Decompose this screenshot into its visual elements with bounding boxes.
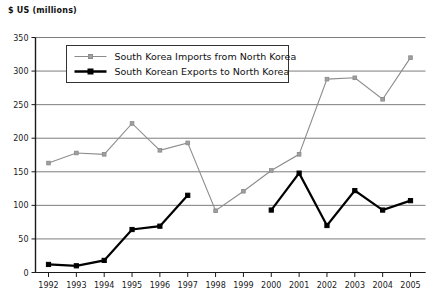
- x-axis-tick-label: 1995: [122, 281, 142, 290]
- data-series-group: [46, 56, 412, 268]
- data-point-marker: [130, 122, 134, 126]
- y-axis-tick-label: 350: [13, 34, 28, 43]
- y-axis-tick-label: 100: [13, 201, 28, 210]
- data-point-marker: [353, 76, 357, 80]
- x-axis-tick-label: 2003: [345, 281, 365, 290]
- series-line-2: [271, 173, 410, 225]
- legend-entry-label: South Korean Exports to North Korea: [115, 66, 290, 77]
- x-axis-tick-label: 2001: [289, 281, 309, 290]
- y-axis-tick-label: 250: [13, 101, 28, 110]
- legend-entry-label: South Korea Imports from North Korea: [115, 51, 297, 62]
- data-point-marker: [75, 151, 79, 155]
- x-axis-tick-label: 2005: [400, 281, 420, 290]
- data-point-marker: [102, 153, 106, 157]
- data-point-marker: [409, 56, 413, 60]
- legend-marker-swatch: [89, 55, 93, 59]
- x-axis-tick-label: 1994: [94, 281, 114, 290]
- data-point-marker: [297, 171, 301, 175]
- x-axis-tick-label: 2000: [261, 281, 281, 290]
- data-point-marker: [214, 209, 218, 213]
- y-axis-tick-label: 50: [18, 235, 28, 244]
- line-chart-plot: 050100150200250300350 199219931994199519…: [0, 0, 440, 302]
- data-point-marker: [325, 77, 329, 81]
- y-axis-tick-label: 300: [13, 67, 28, 76]
- chart-container: $ US (millions) 050100150200250300350 19…: [0, 0, 440, 302]
- series-line-2: [49, 195, 188, 266]
- x-axis-tick-label: 2002: [317, 281, 337, 290]
- y-axis-ticks-group: 050100150200250300350: [13, 34, 35, 278]
- data-point-marker: [381, 208, 385, 212]
- data-point-marker: [158, 149, 162, 153]
- data-point-marker: [408, 199, 412, 203]
- data-point-marker: [186, 193, 190, 197]
- x-axis-tick-label: 1997: [178, 281, 198, 290]
- data-point-marker: [130, 227, 134, 231]
- data-point-marker: [269, 169, 273, 173]
- data-point-marker: [186, 141, 190, 145]
- x-axis-tick-label: 1998: [205, 281, 225, 290]
- data-point-marker: [353, 188, 357, 192]
- y-axis-tick-label: 0: [23, 269, 28, 278]
- data-point-marker: [158, 224, 162, 228]
- legend: South Korea Imports from North KoreaSout…: [67, 46, 297, 83]
- data-point-marker: [297, 153, 301, 157]
- x-axis-tick-label: 1992: [38, 281, 58, 290]
- y-axis-tick-label: 150: [13, 168, 28, 177]
- x-axis-tick-label: 1996: [150, 281, 170, 290]
- legend-marker-swatch: [88, 69, 93, 74]
- data-point-marker: [102, 258, 106, 262]
- data-point-marker: [47, 161, 51, 165]
- x-axis-tick-label: 1993: [66, 281, 86, 290]
- data-point-marker: [269, 208, 273, 212]
- x-axis-tick-label: 2004: [372, 281, 392, 290]
- x-axis-ticks-group: 1992199319941995199619971998199920002001…: [38, 273, 420, 290]
- data-point-marker: [325, 223, 329, 227]
- data-point-marker: [74, 264, 78, 268]
- data-point-marker: [46, 262, 50, 266]
- y-axis-tick-label: 200: [13, 134, 28, 143]
- data-point-marker: [381, 97, 385, 101]
- data-point-marker: [242, 189, 246, 193]
- x-axis-tick-label: 1999: [233, 281, 253, 290]
